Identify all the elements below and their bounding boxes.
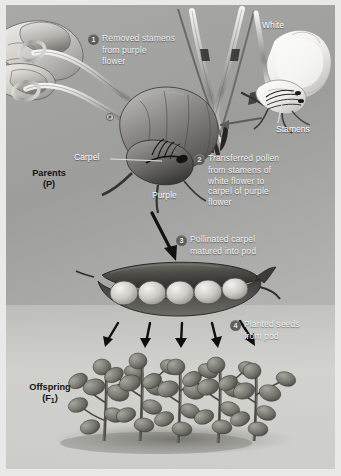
step-3-line-2: matured into pod xyxy=(190,246,296,257)
step-1-line-2: from purple xyxy=(102,45,200,56)
label-stamens: Stamens xyxy=(276,124,310,134)
label-white-flower: White xyxy=(262,20,284,30)
offspring-symbol-prefix: (F xyxy=(42,393,51,403)
step-1-badge: 1 xyxy=(88,34,99,45)
step-3-badge: 3 xyxy=(176,235,187,246)
step-1-callout: 1Removed stamens from purple flower xyxy=(88,33,200,66)
step-2-line-4: carpel of purple xyxy=(208,186,334,197)
parents-text: Parents xyxy=(32,168,66,178)
step-2-line-3: white flower to xyxy=(208,176,334,187)
step-3-line-1: Pollinated carpel xyxy=(190,234,255,244)
maturation-arrow-icon xyxy=(152,213,177,261)
label-parents-generation: Parents (P) xyxy=(18,168,80,190)
step-4-badge: 4 xyxy=(230,320,241,331)
step-4-line-1: Planted seeds xyxy=(244,319,300,329)
step-1-line-1: Removed stamens xyxy=(102,33,175,43)
step-1-line-3: flower xyxy=(102,56,200,67)
offspring-symbol-suffix: ) xyxy=(55,393,58,403)
step-2-line-1: Transferred pollen xyxy=(208,153,279,163)
step-2-callout: 2Transferred pollen from stamens of whit… xyxy=(194,153,334,207)
illustration-panel: 1Removed stamens from purple flower 2Tra… xyxy=(6,5,335,469)
step-4-callout: 4Planted seeds from pod xyxy=(230,319,335,342)
step-2-badge: 2 xyxy=(194,154,205,165)
offspring-symbol: (F1) xyxy=(14,393,86,406)
label-purple-flower: Purple xyxy=(152,190,177,200)
parents-symbol: (P) xyxy=(18,179,80,190)
pea-pod-icon xyxy=(76,262,280,316)
step-2-line-5: flower xyxy=(208,197,334,208)
label-carpel: Carpel xyxy=(74,152,99,162)
offspring-text: Offspring xyxy=(29,382,70,392)
step-3-callout: 3Pollinated carpel matured into pod xyxy=(176,234,296,257)
step-2-line-2: from stamens of xyxy=(208,165,334,176)
label-offspring-generation: Offspring (F1) xyxy=(14,382,86,406)
step-4-line-2: from pod xyxy=(244,331,335,342)
offspring-plants xyxy=(54,353,298,455)
cross-pollination-figure: 1Removed stamens from purple flower 2Tra… xyxy=(0,0,341,476)
